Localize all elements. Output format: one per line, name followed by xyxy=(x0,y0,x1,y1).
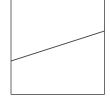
diagonal-line xyxy=(11,31,105,61)
diagram-canvas xyxy=(0,0,110,108)
